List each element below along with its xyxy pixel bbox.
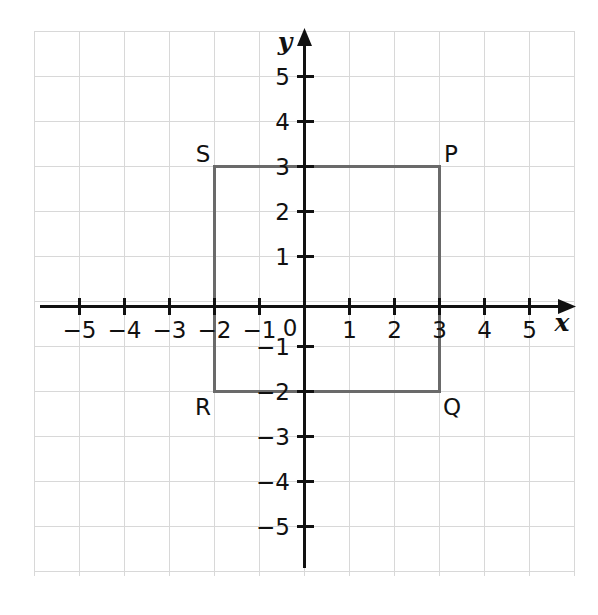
vertex-label-p: P — [444, 141, 458, 167]
x-axis-label: x — [554, 308, 571, 337]
x-axis-tick-labels: −5 −4 −3 −2 −1 0 1 2 3 4 5 — [63, 315, 537, 343]
y-tick-label-5: 5 — [275, 64, 290, 90]
y-tick-label--3: −3 — [256, 424, 290, 450]
y-axis-arrowhead — [297, 28, 312, 46]
y-tick-label-2: 2 — [275, 199, 290, 225]
y-tick-label--5: −5 — [256, 514, 290, 540]
x-tick-label--4: −4 — [108, 317, 142, 343]
y-axis-label: y — [277, 27, 294, 56]
x-tick-label-2: 2 — [387, 317, 402, 343]
y-tick-label--1: −1 — [256, 334, 290, 360]
coordinate-plane-svg: −5 −4 −3 −2 −1 0 1 2 3 4 5 5 4 3 2 1 −1 … — [0, 0, 598, 615]
x-tick-label--5: −5 — [63, 317, 97, 343]
vertex-labels: S P R Q — [195, 141, 461, 420]
coordinate-plane-figure: −5 −4 −3 −2 −1 0 1 2 3 4 5 5 4 3 2 1 −1 … — [0, 0, 598, 615]
y-tick-label--2: −2 — [256, 379, 290, 405]
vertex-label-q: Q — [443, 394, 461, 420]
x-tick-label--2: −2 — [198, 317, 232, 343]
y-tick-label-3: 3 — [275, 154, 290, 180]
square-pqrs-outline — [215, 167, 440, 392]
vertex-label-s: S — [196, 141, 211, 167]
x-tick-label-1: 1 — [342, 317, 357, 343]
x-tick-label-3: 3 — [432, 317, 447, 343]
y-tick-label--4: −4 — [256, 469, 290, 495]
x-tick-label--3: −3 — [153, 317, 187, 343]
x-tick-label-4: 4 — [477, 317, 492, 343]
x-tick-label-5: 5 — [522, 317, 537, 343]
y-tick-label-4: 4 — [275, 109, 290, 135]
y-tick-label-1: 1 — [275, 244, 290, 270]
vertex-label-r: R — [195, 394, 211, 420]
square-pqrs — [215, 167, 440, 392]
